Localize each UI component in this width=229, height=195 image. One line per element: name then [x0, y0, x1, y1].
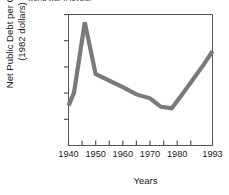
y-tick-label-8000: 8000: [0, 35, 66, 45]
x-axis-title-text: Years: [133, 175, 157, 186]
y-tick-label-2000: 2000: [0, 113, 66, 123]
x-tick-label-1970: 1970: [140, 149, 160, 159]
data-line-net-public-debt: [69, 22, 213, 108]
y-tick-label-4000: 4000: [0, 87, 66, 97]
x-tick-label-1960: 1960: [113, 149, 133, 159]
x-axis-title: Years: [0, 175, 229, 186]
y-tick-label-6000: 6000: [0, 61, 66, 71]
y-axis-tick-labels: 200040006000800010,000: [0, 0, 66, 195]
x-tick-label-1940: 1940: [58, 149, 78, 159]
x-tick-label-1993: 1993: [202, 149, 222, 159]
x-axis-tick-labels: 194019501960197019801993: [0, 149, 229, 165]
x-tick-label-1950: 1950: [85, 149, 105, 159]
y-tick-label-10,000: 10,000: [0, 8, 66, 18]
x-tick-label-1980: 1980: [167, 149, 187, 159]
chart-figure: world war II levels. Net Public Debt per…: [0, 0, 229, 195]
